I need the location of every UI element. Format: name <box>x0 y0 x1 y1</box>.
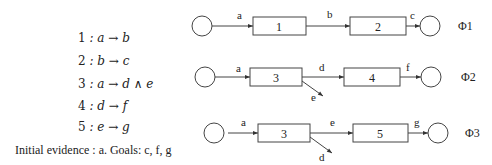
action-label: 2 <box>375 20 381 34</box>
edge-label: g <box>414 116 420 128</box>
edge-label: c <box>410 9 415 21</box>
action-label: 3 <box>273 71 279 85</box>
side-edge-label: e <box>311 91 316 103</box>
edge-label: f <box>406 61 410 73</box>
edge-label: b <box>327 8 333 20</box>
plan-phi3: a 3 e d 5 g Φ3 <box>204 116 480 163</box>
start-node-icon <box>195 67 215 87</box>
edge-label: d <box>319 61 325 73</box>
edge-label: a <box>236 62 241 74</box>
plan-label: Φ2 <box>461 70 476 84</box>
action-label: 1 <box>276 20 282 34</box>
action-label: 5 <box>377 127 383 141</box>
goal-node-icon <box>421 67 441 87</box>
plan-label: Φ3 <box>465 126 480 140</box>
edge-label: a <box>237 9 242 21</box>
plan-phi2: a 3 d e 4 f Φ2 <box>195 61 476 103</box>
goal-node-icon <box>420 16 440 36</box>
start-node-icon <box>204 123 224 143</box>
plan-label: Φ1 <box>458 19 473 33</box>
side-edge-label: d <box>319 151 325 163</box>
edge-label: a <box>241 116 246 128</box>
action-label: 4 <box>369 71 375 85</box>
goal-node-icon <box>428 123 448 143</box>
plan-diagrams: a 1 b 2 c Φ1 a 3 d e 4 f Φ2 a 3 e <box>0 0 492 165</box>
edge-label: e <box>330 116 335 128</box>
plan-phi1: a 1 b 2 c Φ1 <box>192 8 473 36</box>
action-label: 3 <box>281 127 287 141</box>
start-node-icon <box>192 16 212 36</box>
